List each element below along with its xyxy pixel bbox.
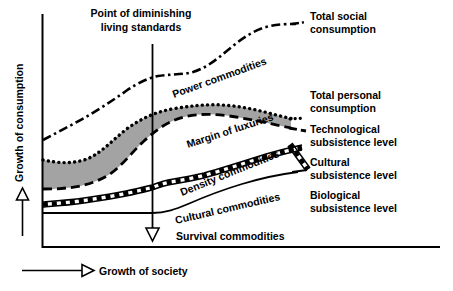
annotation-line-1: Point of diminishing: [91, 7, 192, 19]
right-label-total-social-line2: consumption: [310, 23, 376, 35]
annotation-line-2: living standards: [101, 21, 182, 33]
right-label-total-personal-line1: Total personal: [310, 89, 381, 101]
right-label-total-personal-line2: consumption: [310, 102, 376, 114]
x-axis-label: Growth of society: [99, 265, 188, 277]
right-label-biological-line2: subsistence level: [310, 202, 397, 214]
curve-label-survival-commodities: Survival commodities: [176, 230, 285, 242]
right-label-technological-line1: Technological: [310, 123, 380, 135]
right-label-total-social-line1: Total social: [310, 10, 367, 22]
y-axis-label: Growth of consumption: [13, 64, 25, 182]
right-label-biological-line1: Biological: [310, 189, 360, 201]
diagram-canvas: Point of diminishing living standards Po…: [0, 0, 453, 291]
right-label-cultural-subsistence-line2: subsistence level: [310, 169, 397, 181]
right-label-cultural-subsistence-line1: Cultural: [310, 156, 350, 168]
right-label-technological-line2: subsistence level: [310, 136, 397, 148]
